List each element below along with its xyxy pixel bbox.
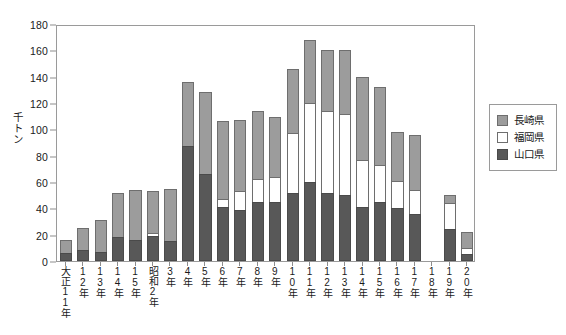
bar-segment-fukuoka: [374, 165, 386, 202]
bar-segment-nagasaki: [391, 132, 403, 181]
bar-group[interactable]: [199, 92, 211, 261]
bar-segment-nagasaki: [60, 240, 72, 253]
x-axis-tick-label: 4年: [182, 266, 192, 287]
bar-segment-nagasaki: [339, 50, 351, 113]
bar-group[interactable]: [409, 135, 421, 261]
x-axis-tick-label: 10年: [287, 266, 297, 298]
bar-segment-yamaguchi: [321, 193, 333, 261]
x-axis-tick-label: 大正11年: [60, 266, 70, 318]
bar-group[interactable]: [95, 220, 107, 261]
bar-segment-nagasaki: [77, 228, 89, 250]
bar-segment-yamaguchi: [112, 237, 124, 261]
bar-group[interactable]: [147, 191, 159, 261]
bar-segment-fukuoka: [217, 199, 229, 207]
x-axis-tick-label: 3年: [164, 266, 174, 287]
bar-segment-fukuoka: [252, 179, 264, 201]
bar-segment-yamaguchi: [356, 207, 368, 261]
plot-area: [56, 25, 475, 262]
bar-segment-yamaguchi: [129, 240, 141, 261]
bar-segment-yamaguchi: [409, 214, 421, 261]
bar-segment-nagasaki: [356, 77, 368, 160]
bar-segment-nagasaki: [234, 120, 246, 191]
legend-item[interactable]: 福岡県: [497, 129, 550, 146]
bar-group[interactable]: [60, 240, 72, 261]
bar-segment-yamaguchi: [269, 202, 281, 261]
bar-segment-fukuoka: [234, 191, 246, 209]
bar-segment-nagasaki: [252, 111, 264, 179]
bar-segment-fukuoka: [409, 190, 421, 214]
y-axis-tick-label: 140: [30, 72, 48, 84]
bar-group[interactable]: [339, 50, 351, 261]
bar-segment-fukuoka: [444, 203, 456, 229]
bar-group[interactable]: [461, 232, 473, 261]
x-axis-tick-label: 9年: [269, 266, 279, 287]
x-axis-tick-label: 16年: [391, 266, 401, 298]
bar-segment-yamaguchi: [164, 241, 176, 261]
x-axis-tick-label: 8年: [252, 266, 262, 287]
bar-group[interactable]: [444, 195, 456, 261]
y-axis-tick-label: 80: [36, 151, 48, 163]
bar-group[interactable]: [217, 121, 229, 261]
bar-segment-yamaguchi: [60, 253, 72, 261]
bars-layer: [57, 26, 474, 261]
bar-segment-nagasaki: [321, 50, 333, 111]
bar-group[interactable]: [321, 50, 333, 261]
bar-segment-yamaguchi: [252, 202, 264, 261]
bar-segment-yamaguchi: [95, 252, 107, 261]
x-axis-tick-label: 13年: [95, 266, 105, 298]
bar-segment-nagasaki: [147, 191, 159, 233]
bar-segment-nagasaki: [112, 193, 124, 238]
bar-group[interactable]: [269, 117, 281, 261]
y-axis-tick-label: 120: [30, 98, 48, 110]
bar-segment-yamaguchi: [304, 182, 316, 261]
bar-segment-yamaguchi: [234, 210, 246, 261]
bar-segment-nagasaki: [269, 117, 281, 176]
bar-segment-fukuoka: [269, 177, 281, 202]
bar-segment-yamaguchi: [77, 250, 89, 261]
bar-group[interactable]: [374, 87, 386, 261]
y-axis-tick-label: 40: [36, 203, 48, 215]
bar-group[interactable]: [356, 77, 368, 261]
bar-segment-fukuoka: [391, 181, 403, 209]
y-axis-tick-label: 180: [30, 19, 48, 31]
bar-group[interactable]: [391, 132, 403, 261]
x-axis-tick-label: 14年: [112, 266, 122, 298]
x-axis-tick-label: 17年: [409, 266, 419, 298]
x-axis-tick-label: 6年: [217, 266, 227, 287]
bar-segment-yamaguchi: [374, 202, 386, 261]
stacked-bar-chart: 千トン 020406080100120140160180 大正11年12年13年…: [0, 0, 566, 335]
bar-segment-yamaguchi: [217, 207, 229, 261]
bar-segment-nagasaki: [444, 195, 456, 203]
bar-group[interactable]: [77, 228, 89, 261]
bar-segment-nagasaki: [304, 40, 316, 103]
bar-group[interactable]: [304, 40, 316, 261]
bar-segment-fukuoka: [339, 114, 351, 196]
bar-group[interactable]: [287, 69, 299, 261]
bar-segment-yamaguchi: [199, 174, 211, 261]
bar-group[interactable]: [234, 120, 246, 261]
bar-segment-nagasaki: [199, 92, 211, 174]
x-axis-tick-label: 15年: [374, 266, 384, 298]
bar-group[interactable]: [164, 189, 176, 261]
fukuoka-swatch: [497, 132, 508, 143]
bar-segment-nagasaki: [374, 87, 386, 165]
bar-segment-nagasaki: [461, 232, 473, 248]
x-axis-tick-label: 昭和2年: [147, 266, 157, 307]
x-axis-tick-label: 7年: [234, 266, 244, 287]
legend-item[interactable]: 山口県: [497, 146, 550, 163]
bar-group[interactable]: [252, 111, 264, 261]
y-axis-tick-label: 20: [36, 230, 48, 242]
x-axis-tick-label: 15年: [130, 266, 140, 298]
x-axis-tick-label: 14年: [357, 266, 367, 298]
bar-group[interactable]: [112, 193, 124, 261]
bar-segment-yamaguchi: [147, 236, 159, 261]
bar-segment-nagasaki: [217, 121, 229, 199]
legend-item[interactable]: 長崎県: [497, 112, 550, 129]
bar-segment-fukuoka: [461, 248, 473, 255]
bar-group[interactable]: [129, 190, 141, 261]
x-axis-tick-label: 12年: [322, 266, 332, 298]
bar-segment-fukuoka: [304, 103, 316, 182]
bar-group[interactable]: [182, 82, 194, 261]
x-axis-tick-label: 11年: [304, 266, 314, 298]
bar-segment-nagasaki: [129, 190, 141, 240]
